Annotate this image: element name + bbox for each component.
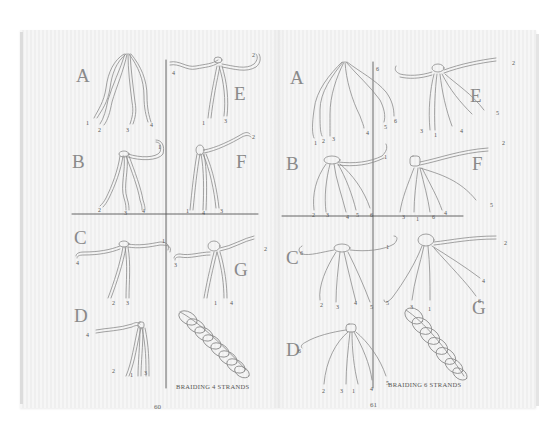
strand-label: 3: [126, 300, 129, 306]
strand-label: 2: [502, 140, 505, 146]
step-letter-a-left: A: [76, 66, 90, 85]
strand-label: 4: [86, 332, 89, 338]
strand-label: 4: [460, 128, 463, 134]
strand-label: 2: [312, 212, 315, 218]
strand-label: 4: [142, 208, 145, 214]
step-letter-b-right: B: [286, 154, 299, 173]
strand-label: 1: [162, 238, 165, 244]
page-number-right: 61: [370, 402, 377, 409]
strand-label: 1: [186, 208, 189, 214]
braiding-illustrations: [20, 30, 536, 408]
strand-label: 2: [504, 240, 507, 246]
step-letter-c-right: C: [286, 248, 299, 267]
strand-label: 1: [214, 300, 217, 306]
strand-label: 4: [354, 300, 357, 306]
strand-label: 5: [384, 124, 387, 130]
strand-label: 1: [130, 372, 133, 378]
step-letter-a-right: A: [290, 68, 304, 87]
book-spread: A B C D E F G 1 2 3 4 1 2 3 4 1 4 2 3 4 …: [20, 30, 536, 408]
strand-label: 6: [298, 348, 301, 354]
strand-label: 1: [158, 144, 161, 150]
strand-label: 2: [320, 302, 323, 308]
strand-label: 3: [420, 128, 423, 134]
strand-label: 1: [416, 216, 419, 222]
strand-label: 6: [370, 212, 373, 218]
figure-caption-right: BRAIDING 6 STRANDS: [388, 382, 461, 389]
step-letter-d-left: D: [74, 306, 88, 325]
strand-label: 2: [98, 127, 101, 133]
strand-label: 1: [314, 140, 317, 146]
strand-label: 3: [410, 304, 413, 310]
strand-label: 2: [512, 60, 515, 66]
strand-label: 4: [202, 210, 205, 216]
strand-label: 2: [252, 52, 255, 58]
strand-label: 1: [352, 388, 355, 394]
strand-label: 5: [496, 110, 499, 116]
strand-label: 4: [346, 214, 349, 220]
strand-label: 3: [124, 210, 127, 216]
strand-label: 4: [444, 210, 447, 216]
strand-label: 1: [202, 120, 205, 126]
page-number-left: 60: [154, 404, 161, 411]
strand-label: 5: [490, 202, 493, 208]
figure-caption-left: BRAIDING 4 STRANDS: [176, 384, 249, 391]
strand-label: 6: [300, 250, 303, 256]
strand-label: 2: [252, 134, 255, 140]
strand-label: 3: [332, 136, 335, 142]
step-letter-e-right: E: [470, 86, 482, 105]
strand-label: 4: [366, 130, 369, 136]
strand-label: 3: [336, 304, 339, 310]
strand-label: 1: [86, 120, 89, 126]
strand-label: 5: [386, 300, 389, 306]
strand-label: 4: [76, 260, 79, 266]
strand-label: 6: [478, 298, 481, 304]
strand-label: 3: [402, 214, 405, 220]
strand-label: 3: [326, 212, 329, 218]
strand-label: 3: [174, 262, 177, 268]
strand-label: 4: [482, 278, 485, 284]
step-letter-c-left: C: [74, 228, 87, 247]
strand-label: 1: [428, 306, 431, 312]
strand-label: 3: [144, 370, 147, 376]
strand-label: 2: [98, 207, 101, 213]
strand-label: 3: [224, 118, 227, 124]
strand-label: 1: [434, 132, 437, 138]
strand-label: 6: [432, 214, 435, 220]
strand-label: 5: [370, 304, 373, 310]
strand-label: 4: [370, 386, 373, 392]
strand-label: 1: [386, 244, 389, 250]
strand-label: 6: [376, 66, 379, 72]
step-letter-f-left: F: [236, 152, 247, 171]
step-letter-f-right: F: [472, 154, 483, 173]
strand-label: 4: [230, 300, 233, 306]
strand-label: 2: [264, 246, 267, 252]
strand-label: 5: [356, 212, 359, 218]
strand-label: 2: [322, 138, 325, 144]
strand-label: 4: [172, 70, 175, 76]
strand-label: 3: [220, 208, 223, 214]
step-letter-b-left: B: [72, 152, 85, 171]
strand-label: 2: [112, 300, 115, 306]
step-letter-e-left: E: [234, 84, 246, 103]
strand-label: 4: [150, 122, 153, 128]
strand-label: 3: [340, 388, 343, 394]
strand-label: 1: [384, 154, 387, 160]
strand-label: 2: [112, 368, 115, 374]
strand-label: 6: [394, 118, 397, 124]
strand-label: 3: [126, 127, 129, 133]
strand-label: 2: [322, 388, 325, 394]
step-letter-g-left: G: [234, 260, 248, 279]
